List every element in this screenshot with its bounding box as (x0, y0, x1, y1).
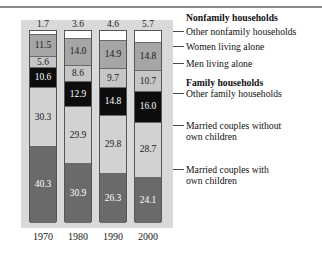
legend-entry[interactable]: Family households (186, 77, 263, 88)
bar-segment[interactable]: 30.3 (30, 87, 56, 145)
segment-value-label: 8.6 (72, 69, 84, 78)
legend-entry[interactable]: Married couples withown children (186, 164, 269, 186)
legend-entry[interactable]: Married couples withoutown children (186, 120, 281, 142)
segment-value-label: 11.5 (35, 41, 51, 50)
bar-segment[interactable]: 24.1 (135, 177, 161, 223)
stacked-bar-chart-figure: 1.711.55.610.630.340.33.614.08.612.929.9… (0, 0, 322, 255)
legend-entry[interactable]: Women living alone (186, 41, 264, 52)
legend-entry[interactable]: Nonfamily households (186, 12, 278, 23)
segment-value-label: 26.3 (105, 194, 122, 203)
legend-label: Other family households (186, 88, 282, 99)
segment-value-label: 5.6 (37, 58, 49, 67)
legend-label-line2: own children (186, 175, 269, 186)
segment-value-label: 14.8 (105, 97, 122, 106)
bar-segment[interactable]: 10.6 (30, 67, 56, 87)
bar-segment[interactable]: 5.6 (30, 56, 56, 67)
stacked-bar-1970[interactable]: 11.55.610.630.340.3 (29, 30, 57, 222)
legend-label: Married couples with (186, 164, 269, 175)
bar-segment[interactable]: 14.0 (65, 38, 91, 65)
bar-segment[interactable]: 30.9 (65, 163, 91, 222)
segment-value-label: 30.9 (70, 189, 87, 198)
bar-segment[interactable]: 14.8 (135, 42, 161, 70)
segment-value-label: 30.3 (35, 113, 52, 122)
bar-segment[interactable]: 10.7 (135, 70, 161, 91)
legend-leader-line (173, 125, 184, 126)
segment-value-label: 14.9 (105, 50, 122, 59)
bar-segment[interactable]: 12.9 (65, 81, 91, 106)
legend-leader-line (173, 93, 184, 94)
bar-top-value-label-1980: 3.6 (64, 19, 92, 29)
segment-value-label: 28.7 (140, 145, 157, 154)
legend-leader-line (173, 63, 184, 64)
segment-value-label: 10.7 (140, 77, 157, 86)
legend-label-line2: own children (186, 131, 281, 142)
segment-value-label: 24.1 (140, 196, 157, 205)
bar-segment[interactable]: 28.7 (135, 122, 161, 177)
segment-value-label: 10.6 (35, 73, 52, 82)
segment-value-label: 12.9 (70, 90, 87, 99)
bar-top-value-label-2000: 5.7 (134, 19, 162, 29)
legend-leader-line (173, 46, 184, 47)
bar-segment[interactable]: 8.6 (65, 65, 91, 82)
segment-value-label: 14.0 (70, 47, 87, 56)
bar-segment[interactable] (135, 31, 161, 42)
segment-value-label: 9.7 (107, 74, 119, 83)
legend-label: Nonfamily households (186, 12, 278, 23)
bar-segment[interactable]: 11.5 (30, 34, 56, 56)
stacked-bar-2000[interactable]: 14.810.716.028.724.1 (134, 30, 162, 222)
segment-value-label: 40.3 (35, 180, 52, 189)
bar-segment[interactable]: 14.9 (100, 40, 126, 69)
segment-value-label: 29.8 (105, 140, 122, 149)
segment-value-label: 29.9 (70, 131, 87, 140)
bar-segment[interactable] (100, 31, 126, 40)
legend-label: Women living alone (186, 41, 264, 52)
legend-entry[interactable]: Men living alone (186, 58, 252, 69)
legend-leader-line (173, 169, 184, 170)
legend-label: Men living alone (186, 58, 252, 69)
legend-entry[interactable]: Other nonfamily households (186, 26, 296, 37)
bar-segment[interactable] (65, 31, 91, 38)
segment-value-label: 14.8 (140, 52, 157, 61)
stacked-bar-1990[interactable]: 14.99.714.829.826.3 (99, 30, 127, 222)
legend-label: Family households (186, 77, 263, 88)
bar-top-value-label-1970: 1.7 (29, 19, 57, 29)
segment-value-label: 16.0 (140, 102, 157, 111)
bar-segment[interactable]: 16.0 (135, 91, 161, 122)
bar-segment[interactable]: 29.9 (65, 106, 91, 163)
bar-segment[interactable]: 9.7 (100, 68, 126, 87)
legend-leader-line (173, 31, 184, 32)
stacked-bar-1980[interactable]: 14.08.612.929.930.9 (64, 30, 92, 222)
legend-entry[interactable]: Other family households (186, 88, 282, 99)
x-tick-2000: 2000 (126, 231, 170, 242)
plot-area: 1.711.55.610.630.340.33.614.08.612.929.9… (21, 20, 173, 228)
bar-top-value-label-1990: 4.6 (99, 19, 127, 29)
bar-segment[interactable]: 29.8 (100, 115, 126, 172)
bar-segment[interactable]: 40.3 (30, 146, 56, 223)
bars-container: 1.711.55.610.630.340.33.614.08.612.929.9… (21, 20, 173, 228)
bar-segment[interactable]: 26.3 (100, 173, 126, 223)
legend-label: Other nonfamily households (186, 26, 296, 37)
legend-label: Married couples without (186, 120, 281, 131)
bar-segment[interactable]: 14.8 (100, 87, 126, 115)
